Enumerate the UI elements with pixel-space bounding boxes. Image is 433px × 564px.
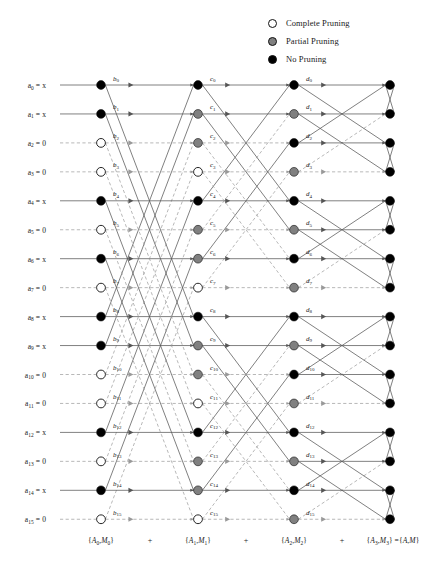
- butterfly-node-none[interactable]: [386, 428, 395, 437]
- input-label-a9: a9 = x: [28, 341, 46, 350]
- edge-arrowhead-icon: [321, 372, 326, 377]
- butterfly-node-none[interactable]: [386, 341, 395, 350]
- butterfly-node-complete[interactable]: [194, 167, 203, 176]
- butterfly-node-none[interactable]: [97, 341, 106, 350]
- butterfly-node-none[interactable]: [97, 81, 106, 90]
- butterfly-node-none[interactable]: [386, 515, 395, 524]
- edge-arrowhead-icon: [225, 488, 230, 493]
- butterfly-node-partial[interactable]: [194, 341, 203, 350]
- input-label-a3: a3 = 0: [28, 167, 46, 176]
- edge-arrowhead-icon: [128, 372, 133, 377]
- butterfly-node-none[interactable]: [386, 370, 395, 379]
- edge-arrowhead-icon: [128, 140, 133, 145]
- butterfly-node-partial[interactable]: [194, 370, 203, 379]
- edge-arrowhead-icon: [128, 111, 133, 116]
- butterfly-node-none[interactable]: [386, 457, 395, 466]
- butterfly-node-none[interactable]: [194, 81, 203, 90]
- butterfly-node-partial[interactable]: [290, 341, 299, 350]
- butterfly-node-partial[interactable]: [290, 399, 299, 408]
- node-label-b9: b9: [113, 335, 119, 343]
- edge-arrowhead-icon: [321, 517, 326, 522]
- butterfly-node-complete[interactable]: [97, 370, 106, 379]
- node-label-c11: c11: [210, 393, 218, 401]
- node-label-d9: d9: [306, 335, 312, 343]
- butterfly-node-none[interactable]: [386, 225, 395, 234]
- butterfly-node-none[interactable]: [194, 312, 203, 321]
- butterfly-node-none[interactable]: [97, 254, 106, 263]
- node-label-d10: d10: [306, 364, 315, 372]
- node-label-d7: d7: [306, 277, 312, 285]
- node-label-c3: c3: [210, 161, 216, 169]
- butterfly-node-none[interactable]: [386, 486, 395, 495]
- edge-layer: [60, 82, 394, 521]
- butterfly-node-none[interactable]: [97, 196, 106, 205]
- butterfly-node-partial[interactable]: [194, 110, 203, 119]
- butterfly-node-none[interactable]: [97, 110, 106, 119]
- butterfly-node-none[interactable]: [97, 312, 106, 321]
- butterfly-node-complete[interactable]: [97, 399, 106, 408]
- node-label-d5: d5: [306, 219, 312, 227]
- butterfly-node-partial[interactable]: [290, 167, 299, 176]
- node-label-d1: d1: [306, 103, 312, 111]
- node-label-c14: c14: [210, 480, 218, 488]
- input-label-a5: a5 = 0: [28, 225, 46, 234]
- butterfly-node-partial[interactable]: [290, 110, 299, 119]
- node-label-b6: b6: [113, 248, 119, 256]
- butterfly-node-partial[interactable]: [290, 283, 299, 292]
- node-label-d8: d8: [306, 306, 312, 314]
- butterfly-node-none[interactable]: [290, 486, 299, 495]
- edge-arrowhead-icon: [128, 285, 133, 290]
- butterfly-node-none[interactable]: [290, 81, 299, 90]
- butterfly-node-complete[interactable]: [194, 515, 203, 524]
- edge-arrowhead-icon: [128, 343, 133, 348]
- butterfly-node-complete[interactable]: [97, 139, 106, 148]
- butterfly-node-partial[interactable]: [194, 486, 203, 495]
- butterfly-node-none[interactable]: [194, 428, 203, 437]
- butterfly-node-none[interactable]: [386, 139, 395, 148]
- butterfly-node-none[interactable]: [386, 283, 395, 292]
- butterfly-node-partial[interactable]: [290, 515, 299, 524]
- edge-arrowhead-icon: [321, 314, 326, 319]
- butterfly-node-none[interactable]: [290, 196, 299, 205]
- butterfly-node-complete[interactable]: [97, 225, 106, 234]
- butterfly-node-complete[interactable]: [194, 283, 203, 292]
- butterfly-node-complete[interactable]: [194, 399, 203, 408]
- butterfly-node-none[interactable]: [386, 399, 395, 408]
- node-label-b2: b2: [113, 132, 119, 140]
- butterfly-node-none[interactable]: [290, 139, 299, 148]
- butterfly-node-none[interactable]: [97, 428, 106, 437]
- butterfly-node-complete[interactable]: [97, 457, 106, 466]
- butterfly-node-partial[interactable]: [194, 254, 203, 263]
- node-label-b5: b5: [113, 219, 119, 227]
- butterfly-node-none[interactable]: [386, 81, 395, 90]
- butterfly-node-none[interactable]: [290, 428, 299, 437]
- edge-arrowhead-icon: [128, 256, 133, 261]
- butterfly-node-none[interactable]: [290, 370, 299, 379]
- butterfly-node-none[interactable]: [386, 312, 395, 321]
- butterfly-node-complete[interactable]: [97, 515, 106, 524]
- edge-arrowhead-icon: [225, 314, 230, 319]
- butterfly-node-complete[interactable]: [97, 167, 106, 176]
- node-label-b13: b13: [113, 451, 122, 459]
- butterfly-node-none[interactable]: [97, 486, 106, 495]
- butterfly-node-complete[interactable]: [97, 283, 106, 292]
- butterfly-node-partial[interactable]: [194, 225, 203, 234]
- butterfly-node-none[interactable]: [386, 110, 395, 119]
- butterfly-node-none[interactable]: [290, 312, 299, 321]
- input-label-a6: a6 = x: [28, 254, 46, 263]
- butterfly-node-partial[interactable]: [290, 457, 299, 466]
- butterfly-node-none[interactable]: [194, 196, 203, 205]
- butterfly-node-none[interactable]: [290, 254, 299, 263]
- stage-cost-term-1: {A1,M1}: [185, 536, 211, 545]
- node-label-b14: b14: [113, 480, 122, 488]
- butterfly-node-none[interactable]: [386, 254, 395, 263]
- node-label-d13: d13: [306, 451, 315, 459]
- butterfly-node-partial[interactable]: [194, 139, 203, 148]
- butterfly-node-partial[interactable]: [290, 225, 299, 234]
- butterfly-node-none[interactable]: [386, 196, 395, 205]
- edge-arrowhead-icon: [128, 430, 133, 435]
- butterfly-node-partial[interactable]: [194, 457, 203, 466]
- node-label-b15: b15: [113, 509, 122, 517]
- edge-arrowhead-icon: [225, 285, 230, 290]
- butterfly-node-none[interactable]: [386, 167, 395, 176]
